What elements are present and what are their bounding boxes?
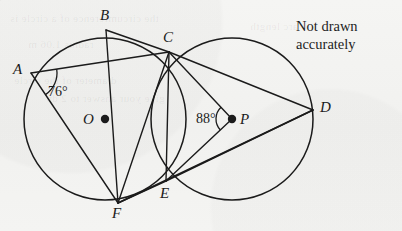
segment-CF: [118, 52, 169, 203]
segment-PE: [166, 119, 232, 181]
point-label-D: D: [320, 100, 331, 115]
note-line-2: accurately: [296, 36, 358, 54]
diagram-page: the circumference of a circle isradius 1…: [0, 0, 402, 231]
segment-AF: [31, 73, 118, 203]
segment-BC: [106, 30, 169, 52]
angle-label-A: 76°: [48, 85, 68, 99]
center-dot-O: [101, 115, 109, 123]
arc-angle-at-P: [216, 107, 221, 130]
point-label-B: B: [100, 8, 109, 23]
point-label-A: A: [13, 62, 22, 77]
angle-arcs-group: [45, 69, 221, 130]
not-drawn-accurately-note: Not drawn accurately: [296, 18, 358, 53]
point-label-C: C: [163, 30, 173, 45]
point-label-E: E: [160, 186, 169, 201]
segment-AC: [31, 52, 169, 73]
angle-label-P: 88°: [196, 112, 216, 126]
note-line-1: Not drawn: [296, 18, 358, 36]
segment-CD: [169, 52, 313, 110]
center-label-P: P: [240, 112, 249, 127]
point-label-F: F: [112, 206, 121, 221]
center-label-O: O: [83, 112, 94, 127]
chords-group: [31, 30, 313, 203]
center-dot-P: [228, 115, 236, 123]
